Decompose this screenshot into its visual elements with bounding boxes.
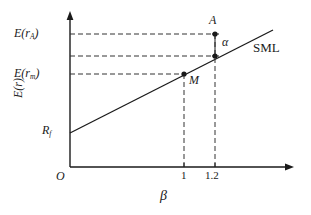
y-tick-label-rf: Rf [42, 124, 51, 137]
point-label-a: A [209, 14, 216, 26]
x-axis-arrowhead [285, 164, 294, 171]
x-tick-label-12: 1.2 [205, 170, 219, 181]
y-tick-label-e-ra: E(rA) [14, 27, 39, 40]
point-a [212, 31, 217, 36]
point-sml-at-beta-12 [212, 53, 217, 58]
figure-canvas [0, 0, 311, 215]
y-axis-label: E(r) [12, 66, 24, 110]
x-axis-label: β [160, 189, 167, 203]
alpha-label: α [222, 36, 228, 48]
point-m [181, 71, 186, 76]
sml-line [70, 30, 273, 133]
point-label-m: M [189, 74, 199, 86]
origin-label: O [56, 170, 65, 182]
x-tick-label-1: 1 [181, 170, 187, 181]
sml-figure: E(rA) E(rm) Rf O 1 1.2 β E(r) A M α SML [0, 0, 311, 215]
sml-label: SML [253, 41, 280, 54]
y-axis-arrowhead [67, 11, 74, 20]
